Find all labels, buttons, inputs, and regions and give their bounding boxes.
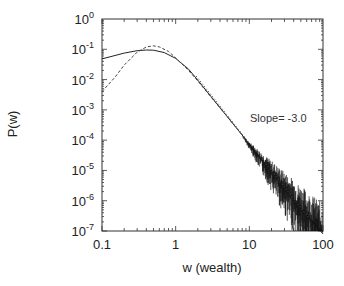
x-tick-label: 10 [242,237,256,252]
y-tick-label: 10-7 [72,222,94,239]
y-tick-label: 10-5 [72,161,94,178]
y-tick-label: 10-2 [72,71,94,88]
y-tick-label: 100 [75,10,94,27]
x-tick-label: 0.1 [93,237,111,252]
x-tick-label: 100 [312,237,334,252]
chart: 10010-110-210-310-410-510-610-7 0.111010… [0,0,344,286]
slope-annotation: Slope= -3.0 [250,112,307,124]
y-tick-label: 10-1 [72,40,94,57]
y-tick-label: 10-6 [72,192,94,209]
y-tick-label: 10-4 [72,131,94,148]
y-axis-title: P(w) [5,111,20,138]
x-axis-title: w (wealth) [181,260,241,275]
series-layer [102,46,323,234]
x-tick-label: 1 [172,237,179,252]
x-tick-labels: 0.1110100 [93,237,334,252]
series-line-dashed [102,46,249,144]
y-tick-label: 10-3 [72,101,94,118]
y-tick-labels: 10010-110-210-310-410-510-610-7 [72,10,94,239]
